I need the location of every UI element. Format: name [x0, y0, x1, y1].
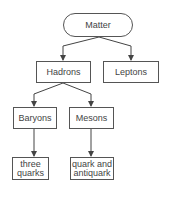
node-leptons: Leptons: [103, 61, 159, 83]
node-mesons: Mesons: [69, 107, 114, 129]
node-label: Baryons: [18, 114, 51, 123]
node-hadrons: Hadrons: [36, 61, 91, 83]
node-label: quark and antiquark: [71, 160, 113, 178]
node-quark-and-antiquark: quark and antiquark: [70, 157, 114, 180]
node-label: Hadrons: [46, 68, 80, 77]
node-label: Mesons: [76, 114, 108, 123]
node-label: three quarks: [13, 160, 48, 178]
node-three-quarks: three quarks: [12, 157, 49, 180]
node-label: Matter: [85, 21, 111, 30]
node-label: Leptons: [115, 68, 147, 77]
node-baryons: Baryons: [13, 107, 57, 129]
node-matter: Matter: [63, 13, 133, 37]
